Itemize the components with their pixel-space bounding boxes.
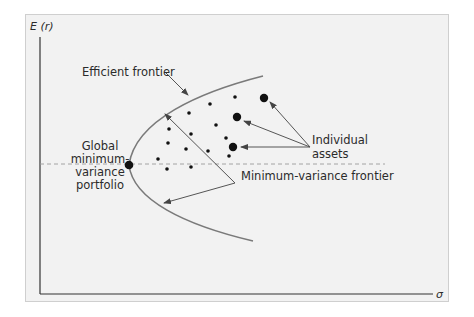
min-variance-frontier-label: Minimum-variance frontier: [241, 169, 394, 183]
individual-assets-arrow-2: [244, 121, 310, 147]
global-min-label-line1: Global: [82, 139, 119, 153]
efficient-frontier-label: Efficient frontier: [82, 65, 175, 79]
x-axis-label: σ: [436, 288, 444, 301]
global-min-label-line4: portfolio: [76, 178, 124, 192]
min-variance-frontier-arrow-lower: [164, 183, 235, 203]
min-variance-frontier-arrow-upper: [165, 114, 235, 183]
individual-assets-arrow-1: [270, 102, 310, 147]
minimum-variance-frontier-curve: [129, 76, 263, 241]
global-min-label-line3: variance: [75, 165, 125, 179]
global-min-label-line2: minimum-: [71, 152, 130, 166]
individual-assets-label-line2: assets: [312, 147, 349, 161]
individual-asset-dots: [156, 95, 237, 171]
y-axis-label: E (r): [30, 20, 54, 33]
efficient-frontier-diagram: E (r) σ Efficient frontier Individual as…: [0, 0, 474, 317]
individual-assets-label-line1: Individual: [312, 133, 368, 147]
